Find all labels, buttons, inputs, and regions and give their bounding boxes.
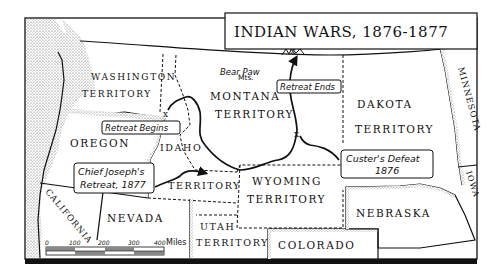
scale-tick-400: 400	[154, 239, 166, 246]
scale-tick-200: 200	[98, 239, 110, 246]
label-washington: WASHINGTON	[91, 72, 176, 82]
scale-tick-100: 100	[69, 239, 81, 246]
callout-chief-joseph-line1: Chief Joseph's	[78, 166, 145, 177]
scale-bar	[46, 247, 164, 255]
label-dakota-territory: TERRITORY	[355, 123, 434, 135]
label-idaho: IDAHO	[160, 142, 202, 153]
callout-custers-defeat-line1: Custer's Defeat	[346, 153, 421, 164]
label-nebraska: NEBRASKA	[356, 207, 431, 219]
scale-unit: Miles	[166, 238, 186, 247]
map-bottom-bar	[25, 259, 477, 264]
label-wyoming-territory: TERRITORY	[247, 193, 326, 205]
label-wyoming: WYOMING	[252, 175, 322, 187]
custer-battle-marker: x	[294, 129, 299, 139]
label-idaho-territory: TERRITORY	[168, 180, 241, 191]
label-nevada: NEVADA	[107, 212, 164, 224]
nv-ut-stipple	[190, 199, 193, 258]
label-colorado: COLORADO	[278, 239, 356, 251]
label-montana: MONTANA	[210, 90, 281, 102]
retreat-start-marker: x	[163, 109, 168, 119]
label-montana-territory: TERRITORY	[215, 108, 294, 120]
callout-retreat-begins: Retreat Begins	[105, 123, 169, 133]
label-bear-paw-mts: Mts.	[238, 73, 254, 82]
map-title: INDIAN WARS, 1876-1877	[234, 23, 448, 41]
indian-wars-map: x x x INDIAN WARS, 1876-1877 WASHINGTON …	[0, 0, 501, 276]
callout-retreat-ends: Retreat Ends	[280, 82, 336, 92]
label-dakota: DAKOTA	[357, 98, 413, 110]
label-washington-territory: TERRITORY	[82, 89, 152, 99]
label-utah-territory: TERRITORY	[196, 237, 269, 248]
label-utah: UTAH	[200, 221, 235, 232]
scale-tick-300: 300	[128, 239, 140, 246]
scale-tick-0: 0	[45, 239, 49, 246]
callout-chief-joseph-line2: Retreat, 1877	[80, 179, 146, 190]
callout-custers-defeat-line2: 1876	[375, 165, 399, 176]
label-oregon: OREGON	[70, 137, 130, 149]
